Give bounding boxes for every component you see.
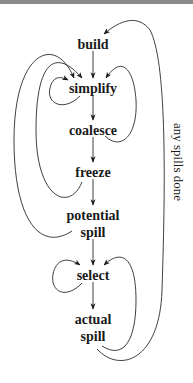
node-potential-spill-line2: spill [81,225,106,240]
edge-actual-spill-build [97,20,164,360]
node-actual-spill-line1: actual [75,312,112,327]
node-potential-spill-line1: potential [67,208,120,223]
edge-potential-spill-simplify [14,54,74,237]
node-simplify: simplify [69,81,117,96]
node-freeze: freeze [75,165,110,180]
node-build: build [77,37,108,52]
node-actual-spill-line2: spill [81,329,106,344]
node-coalesce: coalesce [69,123,117,138]
register-allocation-flow-diagram: build simplify coalesce freeze potential… [0,0,193,383]
node-select: select [77,268,110,283]
edge-label-any-spills-done: any spills done [171,123,186,201]
